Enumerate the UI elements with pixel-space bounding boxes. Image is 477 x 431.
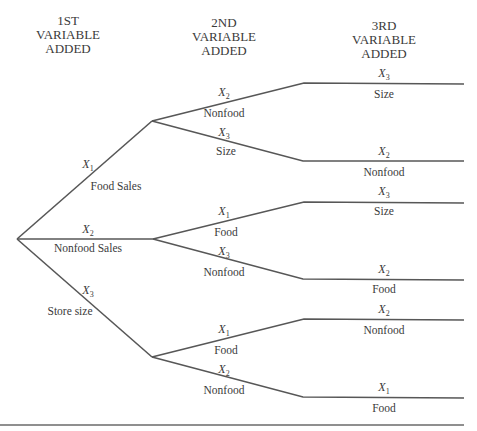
level3-label-2: Size bbox=[374, 205, 394, 217]
level2-var-5: X2 bbox=[217, 362, 229, 378]
level2-label-4: Food bbox=[214, 344, 238, 356]
level2-label-2: Food bbox=[214, 226, 238, 238]
level3-label-3: Food bbox=[372, 283, 396, 295]
level3-var-2: X3 bbox=[377, 184, 389, 200]
edge-path-x3-x1-x2 bbox=[152, 319, 464, 357]
level2-label-0: Nonfood bbox=[204, 107, 245, 119]
edge-root-store-size bbox=[17, 239, 152, 357]
level3-var-3: X2 bbox=[377, 262, 389, 278]
header-2nd-line1: 2ND bbox=[211, 15, 236, 30]
edge-path-x2-x3-x2 bbox=[153, 239, 464, 280]
header-3rd-variable: 3RD VARIABLE ADDED bbox=[352, 18, 416, 61]
level1-label-nonfood-sales: Nonfood Sales bbox=[54, 242, 123, 254]
level1-var-food-sales: X1 bbox=[81, 157, 93, 173]
edge-path-x1-x3-x2 bbox=[152, 121, 464, 161]
level2-var-2: X1 bbox=[217, 204, 229, 220]
header-3rd-line2: VARIABLE bbox=[352, 32, 416, 47]
level2-var-4: X1 bbox=[217, 322, 229, 338]
edge-path-x2-x1-x3 bbox=[153, 202, 464, 239]
edge-path-x1-x2-x3 bbox=[152, 83, 464, 121]
level2-var-0: X2 bbox=[217, 85, 229, 101]
level2-var-1: X3 bbox=[217, 125, 229, 141]
level2-label-5: Nonfood bbox=[204, 384, 245, 396]
level1-var-store-size: X3 bbox=[81, 283, 93, 299]
header-2nd-variable: 2ND VARIABLE ADDED bbox=[192, 15, 256, 58]
header-3rd-line3: ADDED bbox=[361, 46, 407, 61]
edge-path-x3-x2-x1 bbox=[152, 357, 464, 398]
level2-label-3: Nonfood bbox=[204, 266, 245, 278]
level3-label-0: Size bbox=[374, 88, 394, 100]
level3-var-4: X2 bbox=[377, 302, 389, 318]
variable-order-tree-diagram: 1ST VARIABLE ADDED 2ND VARIABLE ADDED 3R… bbox=[0, 0, 477, 431]
level1-label-food-sales: Food Sales bbox=[91, 180, 142, 192]
header-1st-variable: 1ST VARIABLE ADDED bbox=[36, 13, 100, 56]
header-2nd-line2: VARIABLE bbox=[192, 29, 256, 44]
level1-labels: X1 Food Sales X2 Nonfood Sales X3 Store … bbox=[47, 157, 141, 317]
level3-label-5: Food bbox=[372, 402, 396, 414]
level3-var-0: X3 bbox=[377, 66, 389, 82]
level3-var-1: X2 bbox=[377, 144, 389, 160]
level3-var-5: X1 bbox=[377, 380, 389, 396]
header-2nd-line3: ADDED bbox=[201, 43, 247, 58]
level1-label-store-size: Store size bbox=[47, 305, 92, 317]
level2-edges bbox=[152, 83, 464, 398]
level2-labels: X2 Nonfood X3 Size X1 Food X3 Nonfood X1… bbox=[204, 85, 245, 396]
header-1st-line2: VARIABLE bbox=[36, 27, 100, 42]
header-3rd-line1: 3RD bbox=[372, 18, 397, 33]
level2-label-1: Size bbox=[216, 145, 236, 157]
level3-label-4: Nonfood bbox=[364, 324, 405, 336]
level3-labels: X3 Size X2 Nonfood X3 Size X2 Food X2 No… bbox=[364, 66, 405, 414]
header-1st-line3: ADDED bbox=[45, 41, 91, 56]
level1-var-nonfood-sales: X2 bbox=[81, 222, 93, 238]
level3-label-1: Nonfood bbox=[364, 166, 405, 178]
header-1st-line1: 1ST bbox=[57, 13, 79, 28]
level2-var-3: X3 bbox=[217, 244, 229, 260]
